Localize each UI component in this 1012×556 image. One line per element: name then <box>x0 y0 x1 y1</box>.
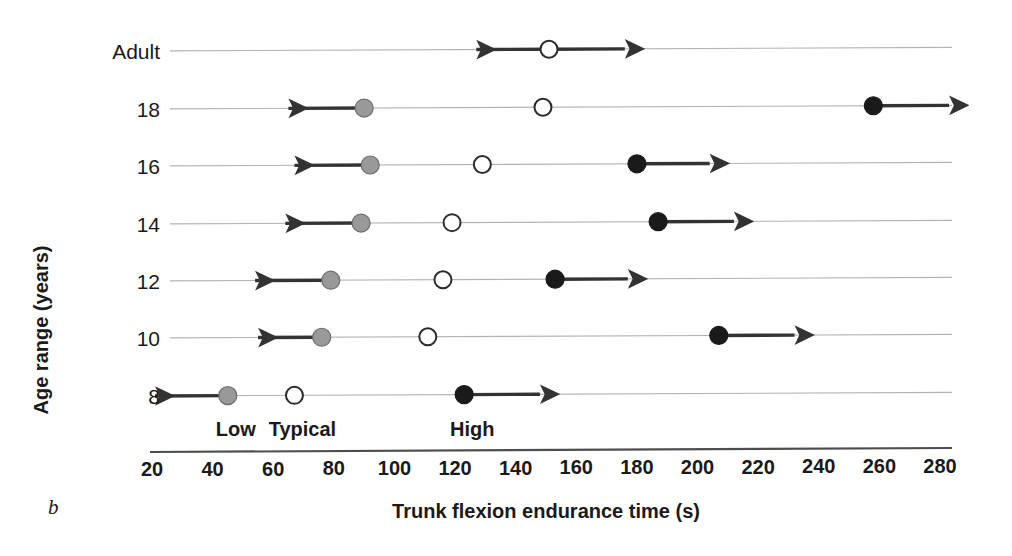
x-axis-title: Trunk flexion endurance time (s) <box>392 500 700 523</box>
x-tick-label-20: 20 <box>141 458 163 481</box>
x-tick-label-40: 40 <box>201 458 223 481</box>
marker-high-10[interactable] <box>710 326 728 344</box>
x-tick-label-220: 220 <box>741 456 774 479</box>
x-tick-label-260: 260 <box>863 455 896 478</box>
marker-high-16[interactable] <box>628 155 646 173</box>
x-tick-label-120: 120 <box>438 457 471 480</box>
marker-low-18[interactable] <box>355 99 373 117</box>
legend-label-high: High <box>450 418 494 441</box>
legend-label-typical: Typical <box>269 418 336 441</box>
marker-typical-8[interactable] <box>286 387 303 404</box>
y-tick-label-18: 18 <box>60 98 160 122</box>
marker-typical-16[interactable] <box>474 156 491 173</box>
x-axis-line-group <box>150 448 952 452</box>
gridline-18 <box>170 105 952 109</box>
y-tick-label-12: 12 <box>60 270 160 294</box>
x-tick-label-180: 180 <box>620 456 653 479</box>
marker-low-16[interactable] <box>361 156 379 174</box>
chart-figure: Adult18161412108 20406080100120140160180… <box>0 0 1012 556</box>
panel-letter: b <box>48 495 59 520</box>
marker-low-14[interactable] <box>352 214 370 232</box>
marker-low-12[interactable] <box>322 271 340 289</box>
marker-high-8[interactable] <box>455 386 473 404</box>
marker-high-18[interactable] <box>864 97 882 115</box>
marker-low-8[interactable] <box>219 387 237 405</box>
x-tick-label-160: 160 <box>560 456 593 479</box>
x-tick-label-60: 60 <box>262 458 284 481</box>
x-tick-label-100: 100 <box>378 457 411 480</box>
x-tick-label-200: 200 <box>681 456 714 479</box>
gridlines-group <box>170 47 952 396</box>
y-tick-label-10: 10 <box>60 327 160 351</box>
marker-high-12[interactable] <box>546 270 564 288</box>
y-tick-label-16: 16 <box>60 155 160 179</box>
marker-typical-adult[interactable] <box>541 41 558 58</box>
y-tick-label-8: 8 <box>60 385 160 409</box>
gridline-16 <box>170 162 952 166</box>
marker-low-10[interactable] <box>313 328 331 346</box>
x-tick-label-140: 140 <box>499 457 532 480</box>
y-tick-label-14: 14 <box>60 213 160 237</box>
x-tick-label-280: 280 <box>923 455 956 478</box>
x-axis-line <box>150 448 952 452</box>
marker-typical-18[interactable] <box>534 99 551 116</box>
marker-typical-14[interactable] <box>444 214 461 231</box>
x-tick-label-240: 240 <box>802 455 835 478</box>
legend-label-low: Low <box>216 418 256 441</box>
marker-high-14[interactable] <box>649 213 667 231</box>
y-tick-label-adult: Adult <box>60 40 160 64</box>
marker-typical-12[interactable] <box>434 271 451 288</box>
marker-typical-10[interactable] <box>419 328 436 345</box>
y-axis-title: Age range (years) <box>30 246 53 415</box>
x-tick-label-80: 80 <box>323 457 345 480</box>
